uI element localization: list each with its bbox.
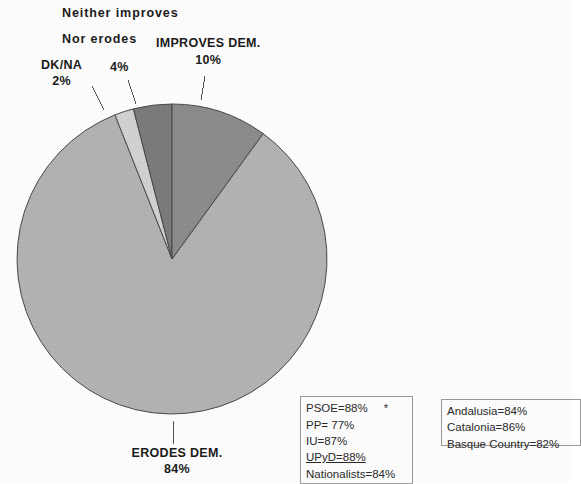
leader-line-dkna: [92, 86, 104, 110]
callout-improves-name: IMPROVES DEM.: [156, 36, 261, 50]
leader-line-improves: [201, 76, 205, 100]
callout-dkna: DK/NA 2%: [41, 58, 82, 88]
callout-erodes-pct: 84%: [122, 462, 232, 476]
callout-improves-pct: 10%: [156, 53, 261, 67]
legend-row-catalonia-text: Catalonia=86%: [447, 421, 525, 433]
leader-line-nor: [128, 80, 136, 104]
legend-row-nationalists: Nationalists=84%: [306, 466, 407, 482]
legend-row-pp-text: PP= 77%: [306, 419, 354, 431]
legend-box-regions: Andalusia=84% Catalonia=86% Basque Count…: [441, 399, 581, 446]
legend-row-iu: IU=87%: [306, 433, 407, 449]
legend-row-psoe-footnote-marker: *: [384, 402, 388, 414]
callout-erodes-name: ERODES DEM.: [122, 446, 232, 460]
callout-dkna-pct: 2%: [41, 74, 82, 88]
callout-erodes-dem: ERODES DEM. 84%: [122, 446, 232, 476]
legend-row-andalusia-text: Andalusia=84%: [447, 405, 527, 417]
legend-row-pp: PP= 77%: [306, 417, 407, 433]
legend-row-basque-country: Basque Country=82%: [447, 436, 575, 452]
legend-row-nationalists-text: Nationalists=84%: [306, 468, 395, 480]
legend-box-parties: PSOE=88%* PP= 77% IU=87% UPyD=88% Nation…: [300, 396, 413, 484]
callout-improves-dem: IMPROVES DEM. 10%: [156, 36, 261, 67]
legend-row-psoe: PSOE=88%*: [306, 400, 407, 417]
legend-row-psoe-text: PSOE=88%: [306, 402, 368, 414]
legend-row-iu-text: IU=87%: [306, 435, 347, 447]
legend-row-upyd-text: UPyD=88%: [306, 451, 366, 463]
callout-neither-pct-value: 4%: [110, 60, 129, 74]
callout-neither-line1: Neither improves: [62, 6, 179, 20]
callout-dkna-name: DK/NA: [41, 58, 82, 72]
legend-row-upyd: UPyD=88%: [306, 449, 407, 465]
callout-neither-percent: 4%: [110, 60, 129, 74]
legend-row-andalusia: Andalusia=84%: [447, 403, 575, 419]
legend-row-catalonia: Catalonia=86%: [447, 419, 575, 435]
legend-row-basque-country-text: Basque Country=82%: [447, 438, 559, 450]
